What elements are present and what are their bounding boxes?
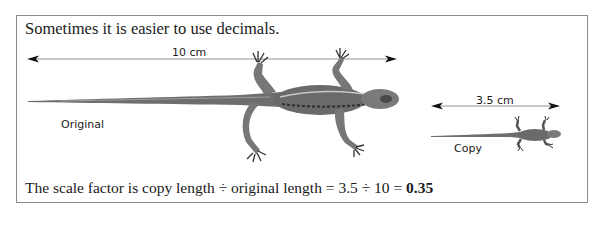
formula-result: 0.35 <box>406 179 433 196</box>
scale-factor-formula: The scale factor is copy length ÷ origin… <box>25 179 433 197</box>
formula-text: The scale factor is copy length ÷ origin… <box>25 179 406 196</box>
copy-lizard-icon <box>431 116 561 151</box>
copy-double-arrow-icon <box>431 103 560 110</box>
original-lizard-icon <box>28 48 399 162</box>
